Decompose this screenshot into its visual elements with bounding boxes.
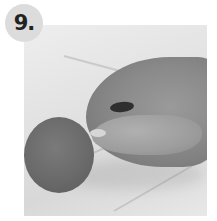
tomato xyxy=(24,117,94,193)
step-number-badge: 9. xyxy=(5,4,43,42)
finger xyxy=(92,115,202,155)
step-photo xyxy=(24,25,207,216)
step-number-label: 9. xyxy=(14,11,35,35)
fingernail xyxy=(90,129,106,137)
